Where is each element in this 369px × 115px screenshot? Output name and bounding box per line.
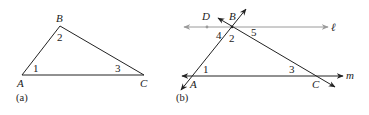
side-bc [60, 26, 144, 75]
angle-5-label: 5 [251, 26, 257, 38]
figure-b: D B ℓ 4 2 5 1 3 A C m (b) [176, 9, 354, 104]
angle-3-label: 3 [115, 62, 121, 74]
vertex-a-label: A [16, 77, 24, 89]
geometry-figure: B 2 1 3 A C (a) D B ℓ 4 2 5 1 3 A C m (b… [0, 0, 369, 115]
point-a-label: A [189, 78, 197, 90]
vertex-b-label: B [56, 12, 63, 24]
angle-1-label-b: 1 [203, 63, 209, 75]
angle-2-label: 2 [57, 31, 63, 43]
point-b-label: B [229, 10, 236, 22]
line-bc [218, 18, 335, 87]
point-d [206, 26, 209, 29]
angle-4-label: 4 [216, 29, 222, 41]
point-c-label: C [312, 78, 320, 90]
angle-3-label-b: 3 [289, 63, 295, 75]
caption-b: (b) [176, 92, 189, 104]
point-d-label: D [201, 10, 210, 22]
triangle-a: B 2 1 3 A C (a) [16, 12, 148, 104]
angle-1-label: 1 [33, 62, 39, 74]
point-b [231, 26, 234, 29]
line-l-label: ℓ [331, 21, 336, 33]
caption-a: (a) [16, 92, 28, 104]
angle-2-label-b: 2 [229, 32, 235, 44]
side-ab [22, 26, 60, 75]
vertex-c-label: C [140, 77, 148, 89]
line-m-label: m [346, 69, 354, 81]
